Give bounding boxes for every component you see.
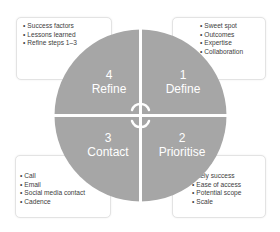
quadrant-number: 2: [152, 131, 212, 145]
quadrant-number: 3: [78, 131, 138, 145]
quadrant-title: Refine: [92, 82, 127, 96]
quadrant-contact: 3 Contact: [78, 131, 138, 159]
quadrant-title: Define: [166, 82, 201, 96]
quadrant-number: 1: [153, 68, 213, 82]
horizontal-separator: [48, 114, 234, 117]
quadrant-title: Contact: [87, 145, 128, 159]
quadrant-number: 4: [79, 68, 139, 82]
quadrant-refine: 4 Refine: [79, 68, 139, 96]
quadrant-define: 1 Define: [153, 68, 213, 96]
cycle-wheel: [0, 0, 280, 232]
quadrant-prioritise: 2 Prioritise: [152, 131, 212, 159]
quadrant-title: Prioritise: [159, 145, 206, 159]
